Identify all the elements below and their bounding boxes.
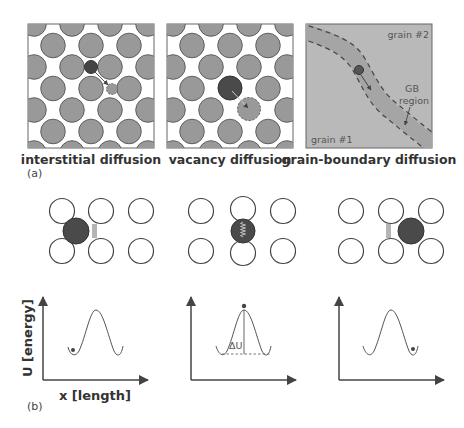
diffusing-atom <box>231 219 255 243</box>
lattice-atom <box>237 12 262 37</box>
lattice-atom <box>0 98 8 123</box>
lattice-atom <box>332 0 357 15</box>
lattice-atom <box>155 0 180 15</box>
lattice-atom <box>237 55 262 80</box>
lattice-atom <box>41 76 66 101</box>
lattice-atom <box>79 76 104 101</box>
lattice-atom <box>218 0 243 15</box>
delta-u-label: ΔU <box>229 340 242 351</box>
lattice-atom <box>3 0 28 15</box>
spring-icon <box>386 225 391 237</box>
energy-curve <box>216 310 271 355</box>
lattice-atom <box>3 33 28 58</box>
lattice-atom <box>117 33 142 58</box>
lattice-atom <box>161 98 186 123</box>
lattice-atom <box>3 76 28 101</box>
part-b-label: (b) <box>27 400 43 413</box>
atom-marker <box>242 304 246 308</box>
state-final-lattice <box>339 199 444 264</box>
lattice-atom <box>180 76 205 101</box>
atom-marker <box>71 348 75 352</box>
lattice-atom <box>98 55 123 80</box>
target-interstitial-site <box>107 84 118 95</box>
diffusion-figure: grain #2 grain #1 GB region interstitial… <box>0 0 464 428</box>
lattice-atom <box>294 0 319 15</box>
lattice-atom <box>193 0 218 15</box>
lattice-atom <box>275 12 300 37</box>
lattice-atom <box>117 119 142 144</box>
lattice-atom <box>136 12 161 37</box>
lattice-atom <box>256 76 281 101</box>
energy-plot-initial <box>43 297 148 380</box>
panel-grain-boundary-diffusion: grain #2 grain #1 GB region <box>300 23 446 156</box>
lattice-atom <box>98 12 123 37</box>
lattice-atom <box>275 98 300 123</box>
lattice-atom <box>79 33 104 58</box>
lattice-atom <box>199 98 224 123</box>
lattice-atom <box>0 141 8 166</box>
lattice-atom <box>117 76 142 101</box>
caption-vacancy: vacancy diffusion <box>169 152 292 167</box>
state-saddle-lattice <box>189 197 296 266</box>
lattice-atom <box>79 119 104 144</box>
diffusing-atom <box>398 218 424 244</box>
lattice-atom <box>22 98 47 123</box>
lattice-atom <box>41 33 66 58</box>
energy-curve <box>68 310 123 355</box>
y-axis-label: U [energy] <box>20 299 35 377</box>
lattice-atom <box>136 55 161 80</box>
energy-plot-saddle: ΔU <box>191 297 296 380</box>
lattice-atom <box>218 33 243 58</box>
part-a-label: (a) <box>27 167 42 180</box>
atom-marker <box>411 347 415 351</box>
lattice-atom <box>98 98 123 123</box>
lattice-atom <box>161 12 186 37</box>
lattice-atom <box>218 119 243 144</box>
lattice-atom <box>41 119 66 144</box>
lattice-atom <box>22 12 47 37</box>
energy-plot-final <box>339 297 444 380</box>
interstitial-atom <box>85 61 98 74</box>
lattice-atom <box>161 55 186 80</box>
lattice-atom <box>60 55 85 80</box>
lattice-atom <box>0 55 8 80</box>
spring-icon <box>92 225 97 237</box>
lattice-atom <box>256 119 281 144</box>
lattice-atom <box>199 12 224 37</box>
jumping-atom <box>218 76 242 100</box>
state-initial-lattice <box>50 199 154 264</box>
lattice-atom <box>180 0 205 15</box>
lattice-atom <box>22 55 47 80</box>
lattice-atom <box>79 0 104 15</box>
diffusing-atom <box>355 66 364 75</box>
caption-interstitial: interstitial diffusion <box>21 152 161 167</box>
lattice-atom <box>60 98 85 123</box>
lattice-atom <box>41 0 66 15</box>
lattice-atom <box>60 12 85 37</box>
lattice-atom <box>180 33 205 58</box>
caption-grain-boundary: grain-boundary diffusion <box>282 152 457 167</box>
lattice-atom <box>256 0 281 15</box>
lattice-atom <box>199 55 224 80</box>
gb-label-line2: region <box>399 95 429 106</box>
lattice-atom <box>180 119 205 144</box>
lattice-atom <box>142 0 167 15</box>
energy-curve <box>363 310 418 355</box>
lattice-atom <box>136 98 161 123</box>
lattice-atom <box>275 55 300 80</box>
grain-2-label: grain #2 <box>388 29 429 40</box>
diffusing-atom <box>63 218 89 244</box>
lattice-atom <box>0 12 8 37</box>
lattice-atom <box>256 33 281 58</box>
x-axis-label: x [length] <box>59 388 131 403</box>
lattice-atom <box>3 119 28 144</box>
grain-1-label: grain #1 <box>311 134 352 145</box>
gb-label-line1: GB <box>405 83 419 94</box>
lattice-atom <box>117 0 142 15</box>
